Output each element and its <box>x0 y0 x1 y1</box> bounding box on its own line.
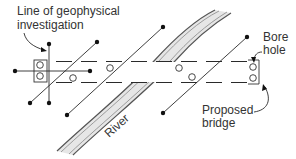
label-bridge: bridge <box>202 116 236 130</box>
label-investigation: investigation <box>17 18 84 32</box>
label-proposed: Proposed <box>202 103 253 117</box>
bore-hole <box>107 65 114 72</box>
bore-hole <box>250 64 257 71</box>
bore-hole <box>70 75 77 82</box>
bore-hole <box>250 75 257 82</box>
label-line-of-geophysical: Line of geophysical <box>17 4 120 18</box>
arrow-icon <box>41 47 47 52</box>
bore-hole <box>176 65 183 72</box>
bore-hole <box>37 62 44 69</box>
bore-hole <box>189 74 196 81</box>
label-hole: hole <box>263 43 286 57</box>
site-investigation-diagram: Line of geophysical investigation Bore h… <box>0 0 296 159</box>
bridge-deck-band <box>50 62 255 82</box>
leader-proposed-bridge <box>254 87 268 112</box>
label-bore: Bore <box>263 30 289 44</box>
bore-hole <box>37 73 44 80</box>
